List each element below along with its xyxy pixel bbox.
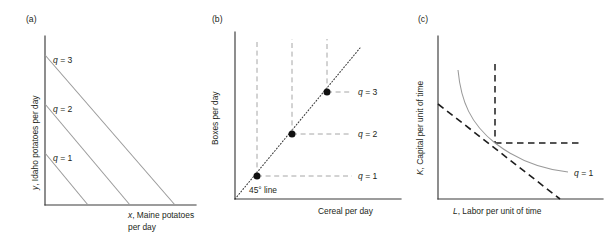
panel-c: (c) K, Capital per unit of time q = 1 L,… — [405, 0, 607, 238]
panel-c-svg: (c) K, Capital per unit of time q = 1 L,… — [405, 0, 607, 238]
panel-b-tag: (b) — [212, 14, 223, 24]
panel-b-point-q1 — [254, 173, 261, 180]
panel-a-x-axis-label-line2: per day — [128, 222, 157, 232]
panel-b-svg: (b) Boxes per day q = 3 q = 2 q = 1 — [200, 0, 405, 238]
panel-c-x-axis-label-text: , Labor per unit of time — [458, 206, 542, 216]
panel-b-label-q3-value: = 3 — [363, 87, 378, 97]
panel-b-label-q2: q = 2 — [358, 129, 378, 139]
panel-b-label-q2-value: = 2 — [363, 129, 378, 139]
panel-c-label-q1: q = 1 — [574, 168, 594, 178]
panel-b: (b) Boxes per day q = 3 q = 2 q = 1 — [200, 0, 405, 238]
panel-c-y-axis-label: K, Capital per unit of time — [415, 81, 425, 175]
panel-a-tag: (a) — [26, 14, 37, 24]
panel-a-svg: (a) y, Idaho potatoes per day q = 3 q = … — [0, 0, 200, 238]
panel-a: (a) y, Idaho potatoes per day q = 3 q = … — [0, 0, 200, 238]
panel-a-x-axis-label-text: , Maine potatoes — [132, 210, 194, 220]
panel-a-label-q3-value: = 3 — [58, 55, 73, 65]
panel-c-y-axis-label-text: , Capital per unit of time — [415, 81, 425, 170]
panel-b-y-axis-label: Boxes per day — [210, 91, 220, 145]
panel-c-tag: (c) — [418, 14, 428, 24]
panel-b-point-q2 — [289, 131, 296, 138]
panel-a-isoquant-q3 — [45, 55, 175, 205]
panel-c-x-axis-label: L, Labor per unit of time — [453, 206, 542, 216]
panel-b-label-q1: q = 1 — [358, 171, 378, 181]
panel-a-y-axis-label: y, Idaho potatoes per day — [30, 95, 40, 191]
figure-container: (a) y, Idaho potatoes per day q = 3 q = … — [0, 0, 607, 238]
panel-a-label-q2-value: = 2 — [58, 104, 73, 114]
panel-a-label-q1: q = 1 — [53, 153, 73, 163]
panel-b-45-degree-annotation: 45° line — [249, 185, 277, 195]
panel-c-isoquant-q1 — [458, 70, 568, 172]
panel-a-label-q1-value: = 1 — [58, 153, 73, 163]
panel-a-y-axis-label-text: , Idaho potatoes per day — [30, 95, 40, 186]
panel-b-label-q1-value: = 1 — [363, 171, 378, 181]
panel-a-label-q2: q = 2 — [53, 104, 73, 114]
panel-a-x-axis-label: x, Maine potatoes — [127, 210, 194, 220]
panel-c-tangent-line — [438, 104, 560, 199]
panel-b-label-q3: q = 3 — [358, 87, 378, 97]
panel-b-point-q3 — [324, 89, 331, 96]
panel-a-label-q3: q = 3 — [53, 55, 73, 65]
panel-b-x-axis-label: Cereal per day — [318, 206, 374, 216]
panel-c-label-q1-value: = 1 — [579, 168, 594, 178]
